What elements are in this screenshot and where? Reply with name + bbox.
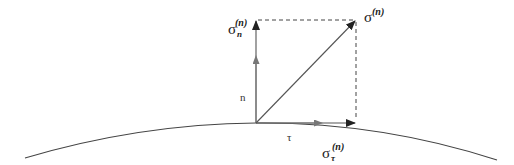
svg-text:σ: σ	[322, 145, 330, 161]
svg-text:σ: σ	[364, 9, 372, 25]
label-normal-n: n	[240, 91, 246, 103]
svg-text:(n): (n)	[235, 17, 247, 29]
label-sigma-tau: σ τ (n)	[322, 141, 344, 163]
resultant-stress-arrow	[256, 21, 355, 123]
surface-curve	[25, 123, 497, 160]
svg-text:τ: τ	[331, 153, 336, 163]
svg-text:n: n	[237, 29, 242, 39]
label-sigma-n: σ n (n)	[228, 17, 247, 39]
label-tangent-tau: τ	[287, 131, 292, 143]
label-sigma-resultant: σ (n)	[364, 6, 384, 25]
stress-decomposition-diagram: σ n (n) σ (n) n τ σ τ (n)	[0, 0, 514, 165]
svg-text:(n): (n)	[332, 141, 344, 153]
svg-text:(n): (n)	[372, 6, 384, 18]
